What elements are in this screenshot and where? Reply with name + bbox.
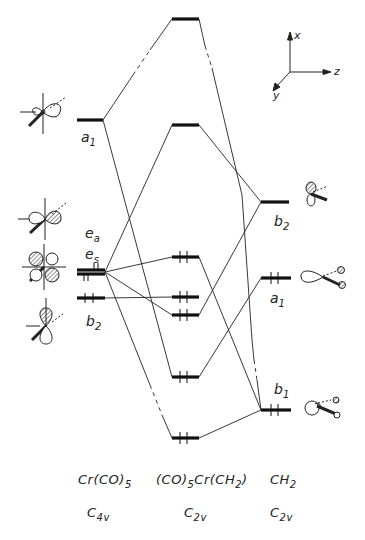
label-left-a1: a1: [81, 130, 96, 148]
label-left-es: es: [85, 247, 99, 265]
orbital-ch2-b1-icon: [305, 397, 340, 418]
label-left-b2: b2: [86, 314, 101, 332]
label-left-ea: ea: [85, 226, 100, 244]
orbital-a1-icon: [20, 93, 66, 134]
mo-diagram: [0, 0, 365, 540]
fragment-left-name: Cr(CO)5: [78, 472, 132, 490]
axis-y-label: y: [273, 90, 280, 101]
fragment-center-name: (CO)5Cr(CH2): [156, 472, 248, 490]
levels-center: [172, 19, 199, 438]
fragment-right-symmetry: C2v: [270, 505, 293, 523]
fragment-right-name: CH2: [270, 472, 297, 490]
electrons-center: [180, 251, 187, 444]
orbital-es-icon: [22, 244, 66, 290]
orbital-b2-icon: [26, 298, 63, 344]
label-right-a1: a1: [270, 291, 285, 309]
fragment-left-symmetry: C4v: [87, 505, 110, 523]
orbital-ch2-a1-icon: [301, 267, 346, 289]
label-right-b2: b2: [274, 214, 289, 232]
axis-z-label: z: [334, 66, 340, 77]
correlation-lines: [103, 19, 261, 438]
axis-x-label: x: [294, 30, 301, 41]
orbital-ea-icon: [18, 198, 66, 240]
axes-icon: [273, 32, 331, 91]
label-right-b1: b1: [274, 382, 289, 400]
orbital-ch2-b2-icon: [306, 182, 328, 206]
fragment-center-symmetry: C2v: [184, 505, 207, 523]
